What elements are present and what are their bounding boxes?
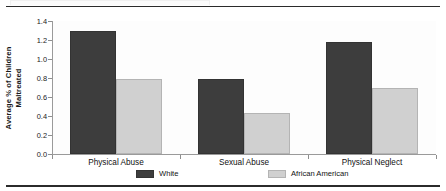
x-axis-tick [308, 155, 309, 159]
y-axis-tick [48, 59, 52, 60]
plot-area: 0.00.20.40.60.81.01.21.4 [52, 21, 436, 154]
y-axis-tick [48, 97, 52, 98]
y-axis-title-line-1: Average % of Children [4, 47, 13, 130]
y-axis-tick-label: 0.0 [37, 150, 47, 159]
bar-african-american [116, 79, 162, 154]
y-axis-tick-label: 0.2 [37, 131, 47, 140]
y-axis-tick [48, 78, 52, 79]
x-axis-category-label: Physical Neglect [342, 158, 403, 167]
legend-swatch [268, 170, 286, 178]
x-axis-tick [436, 155, 437, 159]
y-axis-title-line-2: Maltreated [13, 69, 22, 108]
y-axis-tick-label: 1.2 [37, 36, 47, 45]
y-axis-tick [48, 40, 52, 41]
y-axis-tick-label: 0.6 [37, 93, 47, 102]
legend-label: African American [291, 169, 348, 178]
x-axis-category-label: Sexual Abuse [219, 158, 269, 167]
y-axis-tick-label: 1.0 [37, 55, 47, 64]
x-axis-line [52, 154, 436, 155]
bar-white [326, 42, 372, 154]
top-rule [6, 6, 440, 7]
bar-white [70, 31, 116, 154]
y-axis-line [52, 21, 53, 154]
bar-african-american [372, 88, 418, 154]
y-axis-tick [48, 135, 52, 136]
legend-swatch [136, 170, 154, 178]
bar-white [198, 79, 244, 154]
x-axis-tick [52, 155, 53, 159]
cropped-page-element [10, 0, 210, 5]
y-axis-tick [48, 21, 52, 22]
y-axis-tick-label: 1.4 [37, 17, 47, 26]
legend-item: African American [268, 169, 348, 178]
y-axis-title: Average % of Children Maltreated [0, 18, 26, 158]
y-axis-tick-label: 0.4 [37, 112, 47, 121]
legend-label: White [159, 169, 178, 178]
x-axis-tick [180, 155, 181, 159]
chart-figure: Average % of Children Maltreated 0.00.20… [0, 0, 446, 191]
legend-item: White [136, 169, 178, 178]
y-axis-tick [48, 116, 52, 117]
bar-african-american [244, 113, 290, 154]
bottom-rule [6, 185, 440, 187]
y-axis-tick-label: 0.8 [37, 74, 47, 83]
x-axis-category-label: Physical Abuse [88, 158, 144, 167]
